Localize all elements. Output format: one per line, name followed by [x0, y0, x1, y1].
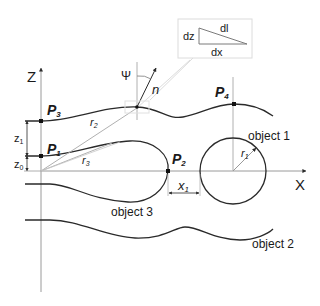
p1-marker [39, 154, 43, 158]
x-axis-label: X [295, 176, 305, 193]
p2-label: P2 [172, 151, 186, 168]
z0-label: z0 [14, 158, 24, 171]
psi-label: Ψ [121, 69, 131, 83]
x1-label: x1 [177, 178, 189, 194]
z-axis-label: Z [27, 68, 36, 85]
geometry-diagram: dl dz dx Z X Ψ n z1 z0 x1 P3 P1 P2 P4 [0, 0, 320, 306]
p3-marker [39, 119, 43, 123]
object1-label: object 1 [248, 129, 290, 143]
p2-marker [166, 169, 170, 173]
inset-dz-label: dz [183, 30, 195, 42]
p1-label: P1 [47, 141, 61, 158]
object2-label: object 2 [252, 237, 294, 251]
inset-box: dl dz dx [150, 19, 252, 100]
p3-label: P3 [47, 102, 61, 119]
normal-origin-marker [135, 105, 139, 109]
object2-boundary [25, 220, 273, 240]
p4-marker [232, 102, 236, 106]
z1-label: z1 [14, 132, 24, 145]
inset-dx-label: dx [211, 46, 223, 58]
r3-label: r3 [82, 154, 90, 167]
object3-label: object 3 [111, 205, 153, 219]
r1-label: r1 [241, 147, 249, 160]
p4-label: P4 [215, 84, 229, 101]
inset-dl-label: dl [220, 22, 229, 34]
normal-label: n [152, 82, 159, 97]
psi-angle-arc [137, 76, 151, 79]
r2-label: r2 [90, 116, 98, 129]
